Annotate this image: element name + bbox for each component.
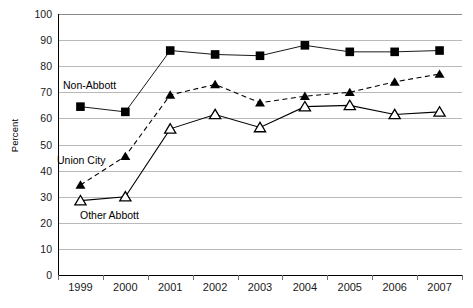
series-label-other-abbott: Other Abbott bbox=[80, 210, 139, 221]
series-label-union-city: Union City bbox=[57, 155, 105, 166]
y-axis-tick-label: 30 bbox=[12, 192, 52, 203]
x-axis-tick-mark bbox=[417, 275, 418, 280]
line-chart: Percent 0102030405060708090100 199920002… bbox=[0, 0, 473, 308]
y-axis-tick-label: 60 bbox=[12, 113, 52, 124]
x-axis-tick-mark bbox=[103, 275, 104, 280]
plot-area bbox=[58, 14, 462, 275]
x-axis-tick-mark bbox=[148, 275, 149, 280]
x-axis-tick-mark bbox=[372, 275, 373, 280]
x-axis-tick-label: 2007 bbox=[410, 282, 470, 293]
x-axis-tick-mark bbox=[58, 275, 59, 280]
y-axis-tick-label: 40 bbox=[12, 166, 52, 177]
y-axis-tick-label: 10 bbox=[12, 244, 52, 255]
gridline bbox=[58, 145, 462, 146]
x-axis-spine bbox=[58, 275, 463, 276]
x-axis-tick-mark bbox=[327, 275, 328, 280]
gridline bbox=[58, 197, 462, 198]
gridline bbox=[58, 171, 462, 172]
gridline bbox=[58, 66, 462, 67]
gridline bbox=[58, 118, 462, 119]
x-axis-tick-labels: 199920002001200220032004200520062007 bbox=[0, 282, 473, 302]
y-axis-tick-label: 90 bbox=[12, 35, 52, 46]
x-axis-tick-mark bbox=[238, 275, 239, 280]
series-label-non-abbott: Non-Abbott bbox=[63, 80, 116, 91]
gridline bbox=[58, 92, 462, 93]
y-axis-tick-label: 80 bbox=[12, 61, 52, 72]
y-axis-tick-label: 20 bbox=[12, 218, 52, 229]
y-axis-tick-label: 100 bbox=[12, 9, 52, 20]
x-axis-tick-mark bbox=[282, 275, 283, 280]
y-axis-spine bbox=[58, 14, 59, 276]
y-axis-tick-label: 0 bbox=[12, 270, 52, 281]
y-axis-tick-label: 70 bbox=[12, 87, 52, 98]
y-axis-tick-labels: 0102030405060708090100 bbox=[8, 14, 52, 275]
y-axis-tick-label: 50 bbox=[12, 140, 52, 151]
gridline bbox=[58, 14, 462, 15]
gridline bbox=[58, 223, 462, 224]
x-axis-tick-mark bbox=[193, 275, 194, 280]
gridline bbox=[58, 40, 462, 41]
x-axis-tick-mark bbox=[462, 275, 463, 280]
gridline bbox=[58, 249, 462, 250]
